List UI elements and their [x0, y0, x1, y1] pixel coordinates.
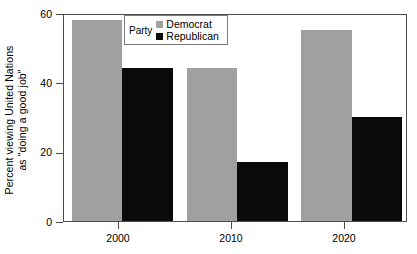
- y-tick-mark-0: [56, 222, 63, 223]
- bar-democrat-2000: [72, 20, 123, 221]
- y-tick-label-60: 60: [30, 9, 52, 20]
- y-tick-label-20: 20: [30, 147, 52, 158]
- legend-label-democrat: Democrat: [166, 19, 212, 30]
- y-tick-mark-60: [56, 14, 63, 15]
- bar-republican-2010: [237, 162, 288, 221]
- bar-chart: Percent viewing United Nations as "doing…: [0, 0, 417, 254]
- y-axis-title-line1: Percent viewing United Nations: [3, 46, 16, 195]
- y-axis-title: Percent viewing United Nations as "doing…: [0, 0, 32, 240]
- legend-entries: Democrat Republican: [156, 19, 219, 42]
- bar-democrat-2020: [301, 30, 352, 221]
- y-axis-title-line2: as "doing a good job": [16, 46, 29, 195]
- legend-swatch-icon-republican: [156, 33, 163, 40]
- legend-title: Party: [129, 25, 152, 36]
- x-tick-mark-2000: [118, 222, 119, 229]
- x-tick-label-2010: 2010: [201, 232, 261, 244]
- plot-area: [63, 14, 407, 222]
- y-tick-label-0: 0: [30, 217, 52, 228]
- bar-democrat-2010: [187, 68, 238, 221]
- legend-item-democrat[interactable]: Democrat: [156, 19, 219, 30]
- y-tick-mark-40: [56, 83, 63, 84]
- y-tick-mark-20: [56, 153, 63, 154]
- legend-swatch-icon-democrat: [156, 21, 163, 28]
- bar-republican-2020: [352, 117, 403, 221]
- legend-label-republican: Republican: [166, 31, 219, 42]
- bars-layer: [64, 15, 406, 221]
- bar-republican-2000: [122, 68, 173, 221]
- x-tick-mark-2010: [231, 222, 232, 229]
- x-tick-label-2000: 2000: [88, 232, 148, 244]
- x-tick-mark-2020: [344, 222, 345, 229]
- y-tick-label-40: 40: [30, 78, 52, 89]
- legend: Party Democrat Republican: [124, 15, 228, 45]
- legend-item-republican[interactable]: Republican: [156, 31, 219, 42]
- x-tick-label-2020: 2020: [314, 232, 374, 244]
